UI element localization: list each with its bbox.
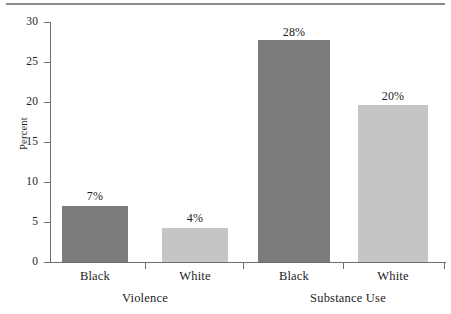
y-tick-label-30: 30 [6,16,38,28]
bar-violence-black[interactable] [62,206,128,262]
y-tick-label-25: 25 [6,56,38,68]
y-tick-label-15: 15 [6,136,38,148]
x-axis-line [50,262,446,263]
bar-violence-white[interactable] [162,228,228,262]
y-tick-0 [44,262,50,263]
bar-substance-use-white[interactable] [358,105,428,262]
x-tick-separator-1 [145,263,146,269]
bar-chart-figure: Percent 30 25 20 15 10 5 0 7% 4% 28% 20%… [0,0,451,314]
x-tick-separator-2 [243,263,244,269]
value-label-substance-use-black: 28% [258,26,330,38]
y-tick-label-20: 20 [6,96,38,108]
y-tick-label-0: 0 [6,256,38,268]
x-tick-separator-4 [444,263,445,269]
y-axis-title: Percent [18,104,29,164]
value-label-substance-use-white: 20% [358,90,428,102]
bar-substance-use-black[interactable] [258,40,330,262]
group-label-violence: Violence [95,291,195,305]
y-tick-label-10: 10 [6,176,38,188]
plot-area [50,22,445,262]
category-label-substance-use-white: White [356,269,430,283]
y-tick-label-5: 5 [6,216,38,228]
category-label-violence-white: White [160,269,230,283]
category-label-substance-use-black: Black [258,269,330,283]
group-label-substance-use: Substance Use [288,291,408,305]
category-label-violence-black: Black [62,269,128,283]
top-divider-rule [6,3,445,5]
value-label-violence-white: 4% [162,212,228,224]
value-label-violence-black: 7% [62,190,128,202]
x-tick-separator-3 [343,263,344,269]
